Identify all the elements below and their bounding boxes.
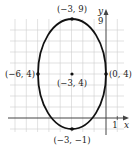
- label-right: (0, 4): [109, 69, 132, 79]
- covertex-left-point: [36, 72, 40, 76]
- label-top: (−3, 9): [57, 4, 87, 14]
- vertex-top-point: [70, 17, 74, 21]
- y-tick-label: 9: [98, 16, 103, 26]
- y-axis-label: y: [97, 6, 104, 16]
- y-axis-arrow-icon: [104, 9, 109, 15]
- center-point: [70, 72, 73, 75]
- x-axis-label: x: [124, 120, 129, 130]
- vertex-bottom-point: [70, 127, 74, 131]
- covertex-right-point: [104, 72, 108, 76]
- ellipse-diagram: (−3, 9) (−6, 4) (−3, 4) (0, 4) (−3, −1) …: [0, 0, 136, 149]
- x-tick-label: 1: [112, 120, 117, 130]
- label-left: (−6, 4): [5, 69, 35, 79]
- label-bottom: (−3, −1): [53, 135, 90, 145]
- label-center: (−3, 4): [57, 78, 87, 88]
